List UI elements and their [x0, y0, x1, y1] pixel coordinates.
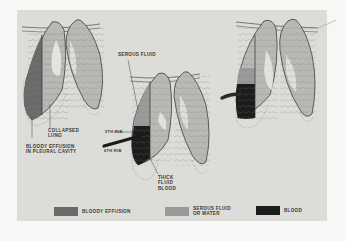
- legend-label: BLOODY EFFUSION: [82, 209, 131, 214]
- figure-1-lungs: [22, 20, 104, 138]
- legend-label: BLOOD: [284, 208, 302, 213]
- legend-serous-fluid: SEROUS FLUID OR WATER: [165, 206, 231, 216]
- lung-diagram: [0, 0, 346, 241]
- label-6th-rib: 6th RIB: [104, 148, 122, 153]
- label-thick-fluid-blood: THICK FLUID BLOOD: [158, 175, 176, 191]
- label-serous-fluid: SEROUS FLUID: [118, 52, 156, 57]
- legend-swatch-bloody-effusion: [54, 207, 78, 216]
- legend-blood: BLOOD: [256, 206, 302, 215]
- legend-swatch-serous-fluid: [165, 207, 189, 216]
- legend-swatch-blood: [256, 206, 280, 215]
- label-bloody-effusion-pleural: BLOODY EFFUSION IN PLEURAL CAVITY: [26, 144, 76, 155]
- legend-bloody-effusion: BLOODY EFFUSION: [54, 207, 131, 216]
- label-5th-rib: 5th RIB: [105, 129, 123, 134]
- legend-label: SEROUS FLUID OR WATER: [193, 206, 231, 216]
- label-collapsed-lung: COLLAPSED LUNG: [48, 128, 79, 139]
- figure-2-lungs: [104, 60, 210, 180]
- figure-3-lungs: [222, 19, 336, 128]
